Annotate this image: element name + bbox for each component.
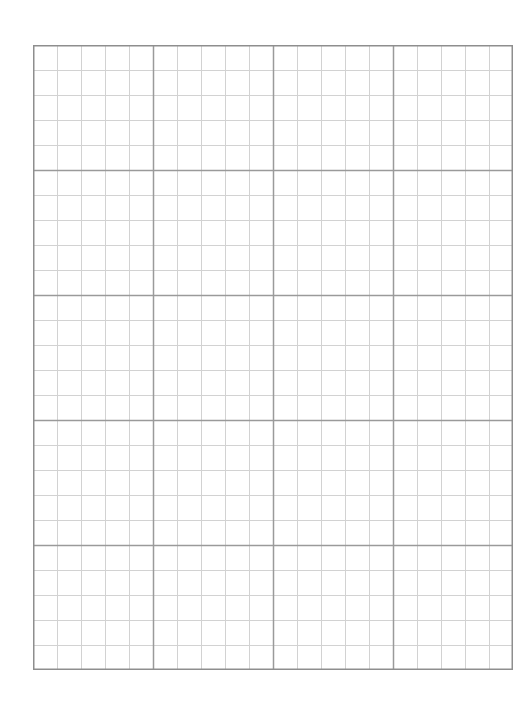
grid-lines: [33, 45, 513, 670]
graph-paper-grid: [33, 45, 513, 670]
